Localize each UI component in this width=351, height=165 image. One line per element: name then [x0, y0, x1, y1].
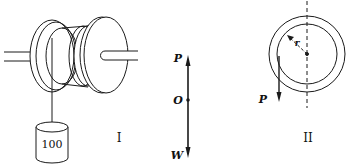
radius-arrow-icon [287, 35, 294, 41]
force-p-arrow-icon [277, 92, 282, 102]
arrow-up-icon [186, 55, 191, 66]
figure-II [269, 1, 345, 108]
point-o [186, 98, 190, 102]
figure-II-caption: II [303, 131, 313, 145]
bucket-top [36, 122, 68, 132]
force-diagram [186, 55, 191, 158]
weight-label: 100 [42, 138, 63, 151]
point-o-label: O [173, 94, 183, 107]
center-point [306, 53, 309, 56]
diagram-canvas: 100 I P O W r P II [0, 0, 351, 165]
figure-I-caption: I [117, 131, 122, 145]
arrow-down-icon [186, 147, 191, 158]
force-p2-label: P [258, 93, 268, 106]
right-axle [101, 51, 139, 60]
force-w-label: W [171, 149, 185, 162]
force-p-label: P [173, 52, 183, 65]
